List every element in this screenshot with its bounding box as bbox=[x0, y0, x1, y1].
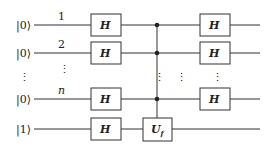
state-label-1: |0⟩ bbox=[16, 19, 31, 33]
state-vdots: ⋮ bbox=[19, 71, 30, 84]
index-label-n: n bbox=[58, 84, 65, 97]
h-gate-label: H bbox=[99, 123, 111, 136]
quantum-circuit: |0⟩ |0⟩ ⋮ |0⟩ |1⟩ 1 2 ⋮ n H H H H Uf ⋮ ⋮… bbox=[0, 0, 273, 151]
h-gate-label: H bbox=[208, 47, 220, 60]
right-vdots: ⋮ bbox=[212, 71, 223, 84]
state-label-ancilla: |1⟩ bbox=[16, 123, 31, 137]
index-vdots: ⋮ bbox=[59, 63, 70, 76]
h-gate-label: H bbox=[99, 47, 111, 60]
state-label-2: |0⟩ bbox=[16, 47, 31, 61]
h-gate-label: H bbox=[208, 93, 220, 106]
h-gate-label: H bbox=[208, 19, 220, 32]
h-gate-label: H bbox=[99, 19, 111, 32]
h-gate-column-2: H H H bbox=[200, 14, 230, 110]
uf-gate: Uf bbox=[143, 118, 172, 141]
index-label-1: 1 bbox=[58, 10, 65, 23]
middle-vdots: ⋮ bbox=[176, 71, 187, 84]
control-dot-2 bbox=[155, 51, 160, 56]
h-gate-column-1: H H H H bbox=[91, 14, 121, 140]
control-vdots: ⋮ bbox=[154, 71, 165, 84]
wires bbox=[34, 25, 260, 129]
h-gate-label: H bbox=[99, 93, 111, 106]
control-dot-1 bbox=[155, 23, 160, 28]
state-label-n: |0⟩ bbox=[16, 93, 31, 107]
index-label-2: 2 bbox=[58, 38, 65, 51]
control-dot-n bbox=[155, 97, 160, 102]
